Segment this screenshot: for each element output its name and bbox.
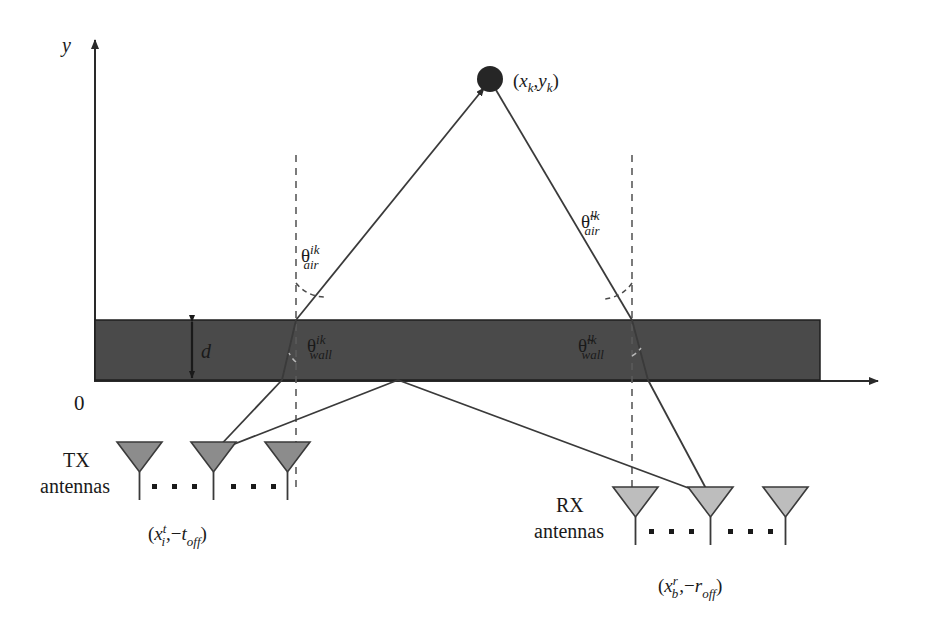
target-point (477, 66, 503, 92)
rx-array-label-line1: RX (556, 494, 584, 516)
angle-label-air-left: θikair (301, 242, 320, 272)
figure-background (0, 0, 931, 635)
tx-array-label-line1: TX (63, 449, 90, 471)
origin-label: 0 (74, 391, 85, 415)
diagram-canvas: y 0 d (xk,yk) θikair θ̃lkair θikwall (0, 0, 931, 635)
y-axis-label: y (60, 34, 71, 57)
rx-array-label-line2: antennas (534, 520, 604, 542)
tx-array-label-line2: antennas (40, 475, 110, 497)
wall-thickness-label: d (201, 340, 212, 362)
angle-label-air-right: θ̃lkair (581, 208, 601, 238)
